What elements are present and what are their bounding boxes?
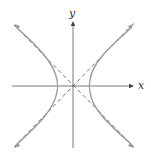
hyperbola-diagram: y x — [0, 0, 151, 164]
x-axis-label: x — [138, 79, 145, 92]
y-axis-label: y — [68, 7, 76, 20]
